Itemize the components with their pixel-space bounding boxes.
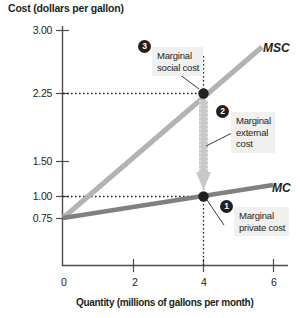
leader-line-external [206, 133, 232, 146]
callout-external-line3: cost [236, 138, 271, 150]
callout-badge-2: 2 [216, 105, 229, 118]
callout-private-line2: private cost [239, 222, 285, 234]
callout-social-cost: Marginal social cost [152, 47, 203, 76]
callout-external-line2: external [236, 127, 271, 139]
callout-badge-3: 3 [138, 40, 151, 53]
callout-social-line2: social cost [157, 62, 199, 74]
callout-private-cost: Marginal private cost [234, 207, 289, 236]
msc-curve-label: MSC [263, 41, 290, 55]
chart-container: Cost (dollars per gallon) 3.00 2.25 1.50… [0, 0, 300, 318]
callout-external-cost: Marginal external cost [231, 112, 275, 153]
msc-point-marker [198, 88, 208, 98]
mc-curve-label: MC [272, 181, 291, 195]
callout-external-line1: Marginal [236, 115, 271, 127]
callout-private-line1: Marginal [239, 210, 285, 222]
callout-badge-1: 1 [220, 200, 233, 213]
callout-social-line1: Marginal [157, 50, 199, 62]
